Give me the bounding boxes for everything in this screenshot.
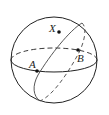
label-b: B xyxy=(77,52,84,64)
equator-back xyxy=(11,48,97,60)
label-a: A xyxy=(28,58,36,70)
equator-front xyxy=(11,60,97,72)
point-a xyxy=(35,69,39,73)
point-x xyxy=(57,30,61,34)
sphere-diagram: X A B xyxy=(0,0,109,115)
great-circle-front xyxy=(34,23,82,101)
label-x: X xyxy=(48,22,57,34)
